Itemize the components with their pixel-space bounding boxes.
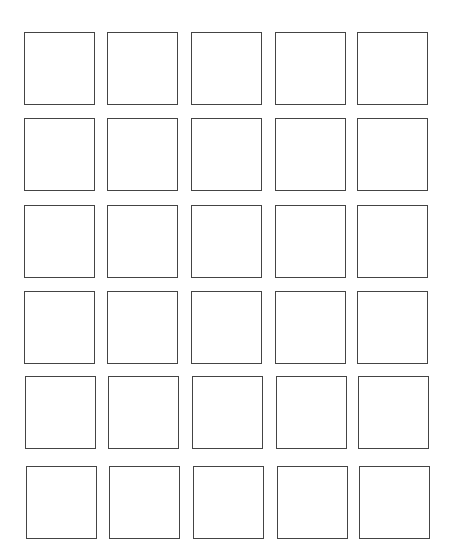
grid-square-r6-c2	[109, 466, 180, 539]
grid-square-r5-c1	[25, 376, 96, 449]
grid-square-r4-c3	[191, 291, 262, 364]
square-grid	[0, 0, 453, 560]
grid-square-r2-c4	[275, 118, 346, 191]
grid-square-r1-c5	[357, 32, 428, 105]
grid-square-r5-c3	[192, 376, 263, 449]
grid-square-r4-c2	[107, 291, 178, 364]
grid-square-r3-c3	[191, 205, 262, 278]
grid-square-r4-c4	[275, 291, 346, 364]
grid-square-r6-c4	[277, 466, 348, 539]
grid-square-r6-c5	[359, 466, 430, 539]
grid-square-r5-c5	[358, 376, 429, 449]
grid-square-r1-c2	[107, 32, 178, 105]
grid-square-r1-c4	[275, 32, 346, 105]
grid-square-r2-c5	[357, 118, 428, 191]
grid-square-r5-c4	[276, 376, 347, 449]
grid-square-r2-c2	[107, 118, 178, 191]
grid-square-r2-c3	[191, 118, 262, 191]
grid-square-r4-c5	[357, 291, 428, 364]
grid-square-r3-c1	[24, 205, 95, 278]
grid-square-r1-c3	[191, 32, 262, 105]
grid-square-r3-c2	[107, 205, 178, 278]
grid-square-r5-c2	[108, 376, 179, 449]
grid-square-r3-c4	[275, 205, 346, 278]
grid-square-r2-c1	[24, 118, 95, 191]
grid-square-r3-c5	[357, 205, 428, 278]
grid-square-r6-c3	[193, 466, 264, 539]
grid-square-r1-c1	[24, 32, 95, 105]
grid-square-r4-c1	[24, 291, 95, 364]
grid-square-r6-c1	[26, 466, 97, 539]
